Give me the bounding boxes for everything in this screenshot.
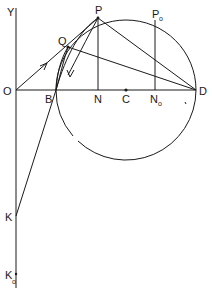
label-c: C: [122, 93, 130, 105]
point-p: [97, 17, 100, 20]
geometry-diagram: Y O B N C N o D P P o Q K K o: [0, 0, 212, 294]
label-p0-sub: o: [159, 15, 163, 22]
point-q: [66, 45, 69, 48]
point-k0: [15, 273, 17, 275]
label-d: D: [199, 85, 207, 97]
label-n0: N: [150, 93, 158, 105]
label-n: N: [94, 93, 102, 105]
label-p: P: [95, 4, 102, 16]
label-n0-sub: o: [158, 100, 162, 107]
label-o: O: [3, 85, 12, 97]
label-k: K: [5, 211, 13, 223]
curve-p-down: [68, 18, 98, 75]
label-k0-sub: o: [12, 278, 16, 285]
stray-mark: [185, 102, 186, 104]
line-p-to-d: [98, 18, 196, 90]
line-q-to-d: [68, 47, 196, 90]
label-q: Q: [58, 35, 67, 47]
label-y: Y: [7, 6, 15, 18]
line-b-to-k: [16, 90, 56, 216]
circle-arc-short: [56, 90, 73, 136]
label-b: B: [45, 93, 52, 105]
point-c: [124, 88, 127, 91]
